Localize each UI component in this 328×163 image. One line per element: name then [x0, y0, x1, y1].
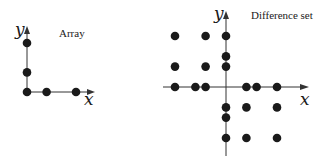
array-x-label: x: [84, 89, 94, 109]
difference-y-arrow-icon: [223, 11, 229, 19]
difference-point: [252, 83, 261, 92]
difference-point: [242, 134, 251, 143]
difference-point: [222, 62, 231, 71]
array-point: [23, 88, 32, 97]
difference-point: [222, 52, 231, 61]
array-y-label: y: [14, 19, 25, 39]
difference-point: [201, 32, 210, 41]
difference-y-label: y: [213, 3, 224, 23]
array-title: Array: [59, 27, 85, 39]
difference-point: [222, 113, 231, 122]
difference-point: [273, 134, 282, 143]
difference-point: [273, 83, 282, 92]
difference-point: [222, 103, 231, 112]
difference-x-label: x: [300, 89, 310, 109]
difference-point: [171, 62, 180, 71]
difference-point: [242, 83, 251, 92]
difference-point: [171, 32, 180, 41]
difference-point: [171, 83, 180, 92]
difference-point: [222, 32, 231, 41]
difference-point: [201, 83, 210, 92]
difference-point: [273, 103, 282, 112]
array-y-arrow-icon: [24, 26, 30, 34]
diagram-canvas: x y Array x y Difference set: [0, 0, 328, 163]
difference-point: [222, 134, 231, 143]
array-panel: x y Array: [14, 19, 95, 109]
difference-point: [201, 62, 210, 71]
difference-point: [191, 83, 200, 92]
array-points: [23, 39, 81, 97]
array-point: [23, 68, 32, 77]
difference-title: Difference set: [251, 9, 313, 21]
array-point: [23, 39, 32, 48]
array-point: [42, 88, 51, 97]
difference-panel: x y Difference set: [163, 3, 313, 156]
difference-point: [242, 103, 251, 112]
array-point: [72, 88, 81, 97]
